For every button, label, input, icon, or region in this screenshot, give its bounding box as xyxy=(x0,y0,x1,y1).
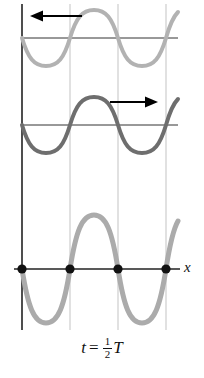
caption-fraction-numerator: 1 xyxy=(103,336,113,348)
right-arrow-icon xyxy=(110,97,158,108)
wave-superposition-figure: x t=12T xyxy=(0,0,204,378)
wave-diagram-svg xyxy=(0,0,204,378)
node-dot-4 xyxy=(161,264,170,273)
caption-fraction: 12 xyxy=(103,336,113,360)
node-dot-2 xyxy=(65,264,74,273)
caption-equals: = xyxy=(86,338,102,357)
caption-fraction-denominator: 2 xyxy=(103,348,113,361)
figure-caption: t=12T xyxy=(0,336,204,360)
left-arrow-icon xyxy=(30,11,82,22)
caption-period-symbol: T xyxy=(113,338,122,357)
node-dot-3 xyxy=(113,264,122,273)
node-dot-1 xyxy=(17,264,26,273)
x-axis-label: x xyxy=(184,259,191,276)
